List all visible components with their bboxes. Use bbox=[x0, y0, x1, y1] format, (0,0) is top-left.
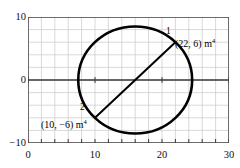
y-tick-label-neg10: −10 bbox=[0, 138, 26, 149]
x-tick-label-0: 0 bbox=[13, 150, 43, 161]
point-1-coordinate-label: (22, 6) m4 bbox=[175, 36, 215, 49]
mohrs-circle-figure: 0 10 20 30 10 0 −10 1 (22, 6) m4 2 (10, … bbox=[0, 0, 240, 168]
x-tick-label-10: 10 bbox=[80, 150, 110, 161]
point-1-coordinate-text: (22, 6) m bbox=[175, 38, 212, 49]
y-tick-label-10: 10 bbox=[0, 12, 26, 23]
point-2-coordinate-label: (10, −6) m4 bbox=[41, 117, 87, 130]
point-2-unit-exponent: 4 bbox=[84, 118, 87, 125]
y-tick-label-0: 0 bbox=[0, 75, 26, 86]
point-2-coordinate-text: (10, −6) m bbox=[41, 119, 84, 130]
point-1-unit-exponent: 4 bbox=[212, 37, 215, 44]
point-1-marker-label: 1 bbox=[166, 27, 171, 37]
x-tick-label-20: 20 bbox=[147, 150, 177, 161]
x-tick-label-30: 30 bbox=[214, 150, 240, 161]
point-2-marker-label: 2 bbox=[80, 103, 85, 113]
